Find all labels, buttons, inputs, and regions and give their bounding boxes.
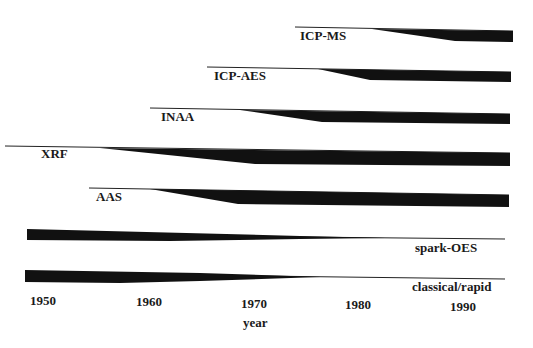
technique-usage-chart: ICP-MS ICP-AES INAA XRF AAS spark-OES cl… (0, 0, 533, 348)
label-icp-aes: ICP-AES (214, 68, 266, 83)
x-axis: 1950 1960 1970 1980 1990 year (30, 293, 476, 330)
tick-1990: 1990 (450, 299, 476, 314)
tick-1960: 1960 (136, 294, 162, 309)
label-xrf: XRF (41, 146, 68, 161)
tick-1980: 1980 (345, 297, 371, 312)
band-xrf: XRF (5, 146, 510, 166)
band-spark-oes: spark-OES (27, 229, 505, 255)
label-aas: AAS (96, 189, 122, 204)
x-axis-title: year (243, 315, 268, 330)
band-aas: AAS (89, 188, 509, 207)
band-icp-aes: ICP-AES (207, 67, 511, 83)
band-classical-rapid: classical/rapid (25, 270, 505, 294)
band-icp-ms: ICP-MS (295, 27, 513, 43)
band-inaa: INAA (150, 108, 510, 124)
label-classical-rapid: classical/rapid (412, 279, 492, 294)
tick-1970: 1970 (241, 296, 267, 311)
label-icp-ms: ICP-MS (300, 28, 346, 43)
label-inaa: INAA (161, 109, 195, 124)
label-spark-oes: spark-OES (415, 240, 477, 255)
tick-1950: 1950 (30, 293, 56, 308)
